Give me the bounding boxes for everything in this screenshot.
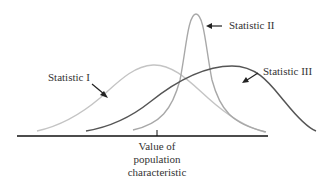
- label-statistic-1: Statistic I: [48, 71, 90, 83]
- axis-label-line-2: population: [133, 153, 181, 165]
- label-statistic-2: Statistic II: [229, 19, 275, 31]
- arrowhead-statistic-2-icon: [206, 23, 212, 29]
- arrow-statistic-1: [92, 84, 104, 94]
- axis-label-line-1: Value of: [139, 140, 176, 152]
- label-statistic-3: Statistic III: [263, 65, 313, 77]
- arrow-statistic-3: [247, 73, 258, 80]
- sampling-distribution-diagram: Statistic I Statistic II Statistic III V…: [0, 0, 334, 183]
- axis-label-line-3: characteristic: [128, 166, 187, 178]
